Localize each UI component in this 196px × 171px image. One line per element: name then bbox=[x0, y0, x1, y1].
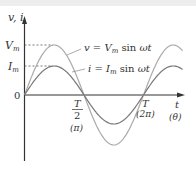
vm-tick-label: Vm bbox=[5, 39, 20, 53]
period-label: T bbox=[142, 98, 150, 109]
origin-label: 0 bbox=[14, 90, 20, 101]
x-axis-label: t bbox=[175, 99, 180, 110]
x-axis-angle-label: (θ) bbox=[169, 112, 182, 122]
x-axis-arrow-icon bbox=[177, 93, 185, 98]
v-callout-line bbox=[67, 49, 81, 55]
half-period-denominator: 2 bbox=[74, 110, 80, 121]
i-equation: i = Im sin ωt bbox=[88, 63, 151, 76]
half-period-angle-label: (π) bbox=[70, 123, 83, 133]
half-period-numerator: T bbox=[74, 98, 82, 109]
sine-waveform-diagram: v, i 0 Vm Im T 2 (π) T (2π) t (θ) v = Vm… bbox=[0, 0, 196, 171]
im-tick-label: Im bbox=[7, 60, 19, 74]
y-axis-label: v, i bbox=[8, 11, 23, 24]
period-angle-label: (2π) bbox=[136, 109, 155, 119]
v-equation: v = Vm sin ωt bbox=[84, 42, 153, 55]
